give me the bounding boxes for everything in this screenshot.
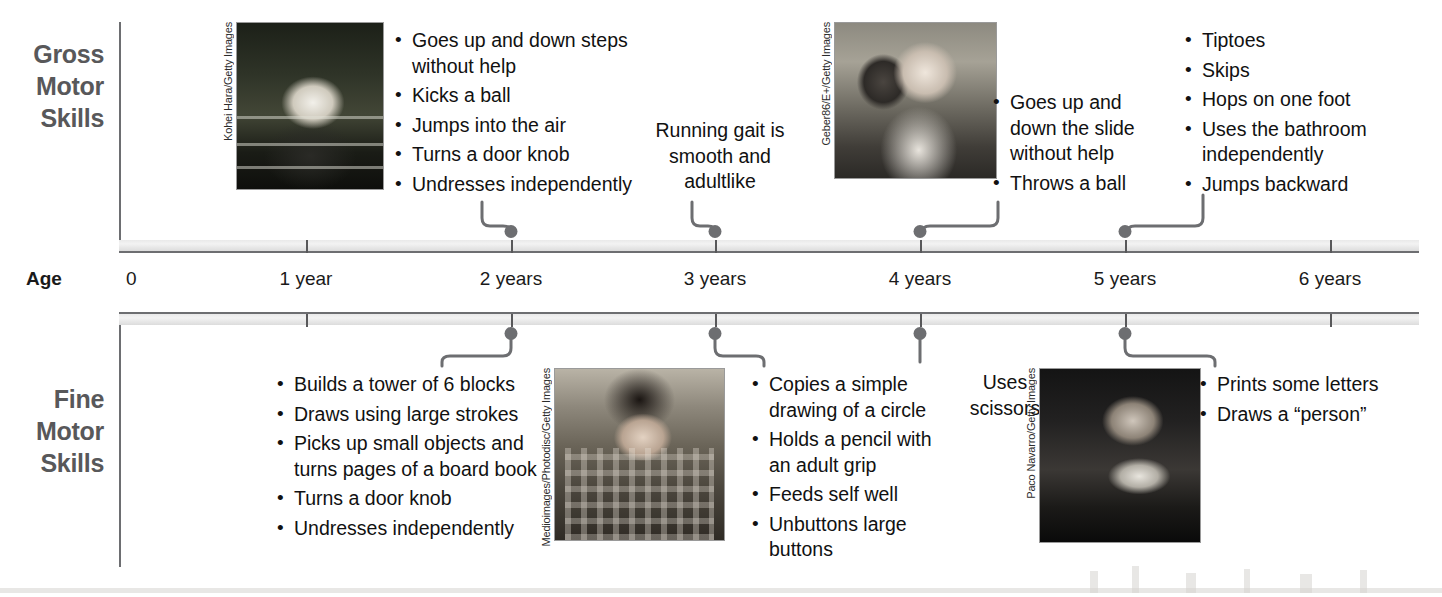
connector-dot-gross-3y [709,225,722,238]
section-label-line: Skills [0,102,104,134]
connector-dot-gross-4y [914,225,927,238]
axis-tick-4y [920,240,922,253]
bullet-item: Tiptoes [1185,28,1415,54]
bullet-item: Turns a door knob [277,486,552,512]
bullet-list-gross-2y: Goes up and down steps without help Kick… [395,28,645,197]
bullet-item: Hops on one foot [1185,87,1415,113]
axis-label-3y: 3 years [684,268,746,290]
photo-credit: Medioimages/Photodisc/Getty Images [540,368,552,546]
bullet-item: Unbuttons large buttons [752,512,932,563]
connector-fine-5y [1122,334,1222,368]
bullet-list-fine-3y: Copies a simple drawing of a circle Hold… [752,372,932,563]
section-label-line: Fine [0,383,104,415]
axis-vertical-rule-bottom [119,312,121,567]
scan-artifact [1186,573,1196,593]
axis-tick-1y [306,240,308,253]
connector-dot-fine-3y [709,327,722,340]
axis-tick-5y [1125,240,1127,253]
connector-dot-fine-4y [914,327,927,340]
section-label-line: Motor [0,70,104,102]
bullet-item: Undresses independently [395,172,645,198]
bullet-item: Uses the bathroom independently [1185,117,1415,168]
connector-dot-gross-2y [505,225,518,238]
photo-image [236,22,384,190]
bullet-list-fine-5y: Prints some letters Draws a “person” [1200,372,1430,427]
connector-fine-3y [712,334,772,368]
bullet-item: Copies a simple drawing of a circle [752,372,932,423]
bullet-item: Goes up and down the slide without help [993,90,1143,167]
axis-tick-6y [1330,314,1332,327]
bullet-item: Jumps backward [1185,172,1415,198]
scan-artifact [1300,574,1312,593]
axis-tick-3y [715,240,717,253]
section-label-gross-motor: Gross Motor Skills [0,38,104,134]
age-axis-bar-top [119,240,1419,253]
bullet-list-fine-2y: Builds a tower of 6 blocks Draws using l… [277,372,552,541]
bullet-item: Holds a pencil with an adult grip [752,427,932,478]
axis-title-age: Age [26,268,62,290]
connector-gross-5y [1125,193,1215,236]
age-axis-bar-bottom [119,312,1419,325]
bullet-item: Turns a door knob [395,142,645,168]
scan-artifact [1090,571,1098,593]
connector-dot-fine-2y [505,327,518,340]
bullet-item: Kicks a ball [395,83,645,109]
bullet-item: Jumps into the air [395,113,645,139]
scan-artifact [1244,569,1250,593]
scan-artifact [1360,570,1367,593]
bullet-item: Builds a tower of 6 blocks [277,372,552,398]
note-gross-3y: Running gait is smooth and adultlike [650,118,790,195]
axis-label-5y: 5 years [1094,268,1156,290]
bullet-item: Draws a “person” [1200,402,1430,428]
bullet-list-gross-4y: Goes up and down the slide without help … [993,90,1143,196]
scan-artifact [0,588,1442,593]
connector-gross-4y [920,200,1010,236]
axis-tick-1y [306,314,308,327]
axis-label-6y: 6 years [1299,268,1361,290]
bullet-item: Undresses independently [277,516,552,542]
bullet-list-gross-5y: Tiptoes Skips Hops on one foot Uses the … [1185,28,1415,197]
bullet-item: Draws using large strokes [277,402,552,428]
axis-tick-2y [511,314,513,327]
bullet-item: Feeds self well [752,482,932,508]
connector-dot-gross-5y [1119,225,1132,238]
axis-tick-2y [511,240,513,253]
photo-credit: Geber86/E+/Getty Images [820,22,832,146]
section-label-line: Gross [0,38,104,70]
bullet-item: Goes up and down steps without help [395,28,645,79]
axis-vertical-rule-top [119,22,121,240]
bullet-item: Picks up small objects and turns pages o… [277,431,552,482]
axis-tick-5y [1125,314,1127,327]
section-label-line: Skills [0,447,104,479]
axis-label-1y: 1 year [280,268,333,290]
photo-image [1039,368,1201,543]
bullet-item: Prints some letters [1200,372,1430,398]
axis-tick-3y [715,314,717,327]
section-label-fine-motor: Fine Motor Skills [0,383,104,479]
axis-origin-label: 0 [126,268,137,290]
photo-image [554,368,725,541]
section-label-line: Motor [0,415,104,447]
axis-label-2y: 2 years [480,268,542,290]
scan-artifact [1132,566,1139,593]
photo-credit: Paco Navarro/Getty Images [1025,368,1037,499]
photo-credit: Kohei Hara/Getty Images [222,22,234,141]
axis-label-4y: 4 years [889,268,951,290]
timeline-diagram: Gross Motor Skills Fine Motor Skills Age… [0,0,1442,597]
axis-tick-6y [1330,240,1332,253]
axis-tick-4y [920,314,922,327]
photo-image [834,22,997,179]
connector-dot-fine-5y [1119,327,1132,340]
bullet-item: Skips [1185,58,1415,84]
bullet-item: Throws a ball [993,171,1143,197]
